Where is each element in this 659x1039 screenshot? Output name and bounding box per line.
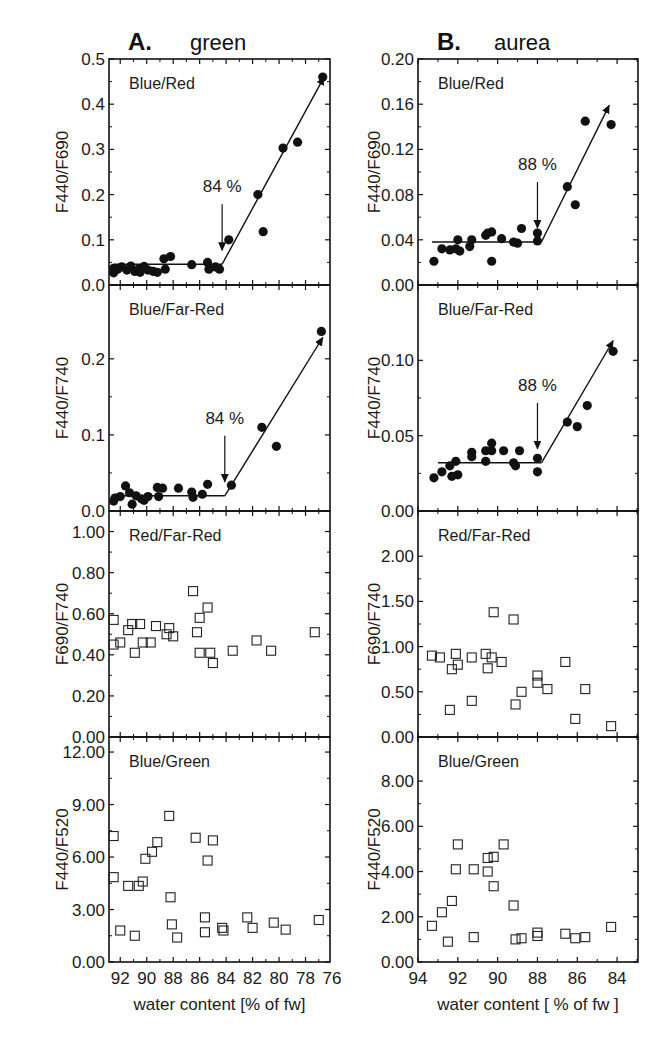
data-point — [195, 613, 204, 622]
y-tick-label: 0.08 — [381, 186, 414, 205]
y-tick-label: 0.3 — [81, 140, 105, 159]
data-point — [487, 257, 496, 266]
data-point — [571, 934, 580, 943]
x-tick-label: 84 — [217, 969, 236, 988]
data-point — [437, 467, 446, 476]
y-tick-label: 2.00 — [381, 908, 414, 927]
x-tick-label: 94 — [409, 969, 428, 988]
y-tick-label: 0.4 — [81, 95, 105, 114]
y-tick-label: 6.00 — [72, 848, 105, 867]
data-point — [208, 836, 217, 845]
data-point — [130, 931, 139, 940]
data-point — [451, 865, 460, 874]
data-point — [318, 72, 327, 81]
slope-arrow — [222, 77, 324, 264]
panel-label: Red/Far-Red — [438, 527, 530, 544]
data-point — [259, 227, 268, 236]
column-a-title: green — [190, 30, 246, 55]
data-point — [208, 659, 217, 668]
data-point — [511, 461, 520, 470]
data-point — [453, 470, 462, 479]
y-tick-label: 0.1 — [81, 231, 105, 250]
data-point — [203, 480, 212, 489]
plot-frame — [109, 59, 330, 285]
data-point — [224, 235, 233, 244]
data-point — [543, 685, 552, 694]
x-tick-label: 82 — [243, 969, 262, 988]
data-point — [533, 454, 542, 463]
panel-1: 0.00.10.20.30.40.5F440/F690Blue/Red84 % — [53, 50, 330, 295]
data-point — [533, 467, 542, 476]
data-point — [198, 490, 207, 499]
y-tick-label: 0.00 — [381, 728, 414, 747]
data-point — [165, 811, 174, 820]
data-point — [429, 473, 438, 482]
data-point — [227, 481, 236, 490]
data-point — [497, 234, 506, 243]
plot-frame — [418, 511, 638, 737]
panel-7: 0.000.501.001.502.00F690/F740Red/Far-Red — [365, 511, 638, 747]
y-tick-label: 0.0 — [81, 276, 105, 295]
data-point — [228, 646, 237, 655]
data-point — [200, 928, 209, 937]
data-point — [497, 657, 506, 666]
data-point — [437, 908, 446, 917]
data-point — [130, 648, 139, 657]
data-point — [310, 628, 319, 637]
data-point — [116, 926, 125, 935]
data-point — [437, 244, 446, 253]
data-point — [314, 916, 323, 925]
y-tick-label: 0.50 — [381, 683, 414, 702]
data-point — [607, 922, 616, 931]
panel-label: Red/Far-Red — [129, 527, 221, 544]
threshold-label: 88 % — [518, 376, 557, 395]
data-point — [293, 138, 302, 147]
data-point — [511, 700, 520, 709]
data-point — [489, 608, 498, 617]
y-tick-label: 8.00 — [381, 772, 414, 791]
data-point — [499, 840, 508, 849]
data-point — [469, 933, 478, 942]
data-point — [561, 929, 570, 938]
data-point — [429, 257, 438, 266]
y-axis-title: F440/F740 — [53, 357, 72, 439]
column-b-title: aurea — [494, 30, 551, 55]
data-point — [166, 252, 175, 261]
y-tick-label: 0.5 — [81, 50, 105, 69]
data-point — [533, 228, 542, 237]
panel-4: 0.003.006.009.0012.00929088868482807876w… — [53, 737, 341, 1014]
data-point — [469, 865, 478, 874]
data-point — [517, 687, 526, 696]
data-point — [561, 657, 570, 666]
data-point — [487, 653, 496, 662]
y-axis-title: F440/F690 — [53, 131, 72, 213]
data-point — [513, 239, 522, 248]
data-point — [267, 646, 276, 655]
data-point — [281, 925, 290, 934]
data-point — [154, 492, 163, 501]
plot-frame — [418, 737, 638, 962]
data-point — [272, 442, 281, 451]
y-tick-label: 4.00 — [381, 863, 414, 882]
data-point — [453, 235, 462, 244]
column-a-letter: A. — [128, 28, 152, 55]
data-point — [161, 265, 170, 274]
y-tick-label: 3.00 — [72, 901, 105, 920]
y-tick-label: 0.04 — [381, 231, 414, 250]
data-point — [455, 247, 464, 256]
data-point — [153, 838, 162, 847]
panel-5: 0.000.040.080.120.160.20F440/F690Blue/Re… — [365, 50, 638, 295]
data-point — [167, 920, 176, 929]
y-tick-label: 0.40 — [72, 646, 105, 665]
y-tick-label: 0.16 — [381, 95, 414, 114]
data-point — [517, 224, 526, 233]
panel-2: 0.00.10.2F440/F740Blue/Far-Red84 % — [53, 285, 330, 521]
data-point — [109, 832, 118, 841]
y-tick-label: 0.00 — [381, 276, 414, 295]
threshold-label: 84 % — [203, 177, 242, 196]
threshold-label: 84 % — [205, 409, 244, 428]
data-point — [269, 918, 278, 927]
panel-8: 0.002.004.006.008.00949290888684water co… — [365, 737, 638, 1014]
data-point — [581, 933, 590, 942]
data-point — [248, 923, 257, 932]
